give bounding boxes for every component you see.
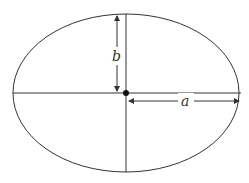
label-b: b [112,48,121,64]
label-a: a [181,93,189,109]
ellipse-diagram: b a [0,0,249,183]
center-point [123,90,129,96]
